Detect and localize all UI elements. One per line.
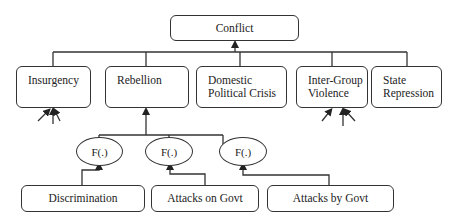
node-attacks-on-govt: Attacks on Govt bbox=[151, 185, 259, 212]
node-insurgency: Insurgency bbox=[16, 66, 91, 108]
node-attacks-by-govt: Attacks by Govt bbox=[267, 185, 394, 212]
node-label: Political Crisis bbox=[208, 87, 286, 100]
function-node-3: F(.) bbox=[219, 137, 267, 166]
node-label: Discrimination bbox=[49, 192, 118, 205]
function-label: F(.) bbox=[161, 146, 177, 158]
node-conflict: Conflict bbox=[170, 15, 299, 41]
node-inter-group-violence: Inter-Group Violence bbox=[296, 66, 368, 108]
node-label: Insurgency bbox=[28, 74, 90, 87]
node-domestic-political-crisis: Domestic Political Crisis bbox=[196, 66, 287, 108]
node-label: Inter-Group bbox=[308, 74, 367, 87]
node-label: Conflict bbox=[216, 22, 254, 35]
function-node-2: F(.) bbox=[145, 137, 193, 166]
function-label: F(.) bbox=[91, 146, 107, 158]
node-label: Rebellion bbox=[117, 74, 188, 87]
node-label: Violence bbox=[308, 87, 367, 100]
node-label: State bbox=[383, 74, 441, 87]
function-label: F(.) bbox=[235, 146, 251, 158]
function-node-1: F(.) bbox=[76, 137, 123, 166]
node-label: Domestic bbox=[208, 74, 286, 87]
node-label: Attacks on Govt bbox=[167, 192, 242, 205]
node-state-repression: State Repression bbox=[371, 66, 442, 108]
node-discrimination: Discrimination bbox=[21, 185, 145, 212]
node-label: Attacks by Govt bbox=[293, 192, 368, 205]
node-rebellion: Rebellion bbox=[105, 66, 189, 108]
node-label: Repression bbox=[383, 87, 441, 100]
